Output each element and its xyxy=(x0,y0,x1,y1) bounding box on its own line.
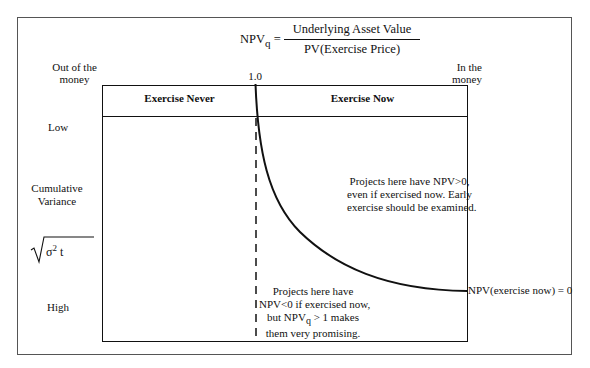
lower-annotation: Projects here have NPV<0 if exercised no… xyxy=(259,285,367,340)
lower-annotation-line3-post: > 1 makes xyxy=(311,311,359,323)
lower-annotation-line2: NPV<0 if exercised now, xyxy=(259,298,367,311)
upper-annotation-line3: exercise should be examined. xyxy=(347,201,472,214)
lower-annotation-line4: them very promising. xyxy=(259,327,367,340)
lower-annotation-line3: but NPVq > 1 makes xyxy=(259,311,367,327)
upper-right-annotation: Projects here have NPV>0, even if exerci… xyxy=(347,175,472,214)
lower-annotation-line3-pre: but NPV xyxy=(267,311,306,323)
upper-annotation-line2: even if exercised now. Early xyxy=(347,188,472,201)
npv-exercise-now-zero-label: NPV(exercise now) = 0 xyxy=(468,284,572,297)
lower-annotation-line1: Projects here have xyxy=(259,285,367,298)
upper-annotation-line1: Projects here have NPV>0, xyxy=(347,175,472,188)
